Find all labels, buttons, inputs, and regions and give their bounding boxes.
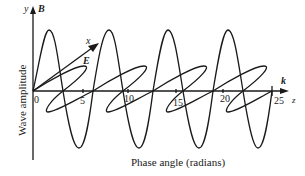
tick-label-15: 15 [173,98,183,108]
z-axis-arrow-icon [280,88,289,94]
tick-label-25: 25 [274,96,284,106]
diagram-graphics [0,0,305,176]
e-field-label: E [83,56,90,66]
y-axis-label: y [24,4,28,14]
z-axis-label: z [292,96,296,105]
b-field-wave [33,30,272,148]
b-field-label: B [38,4,45,14]
y-axis-arrow-icon [30,6,36,14]
k-vector-label: k [281,76,286,86]
x-axis-title: Phase angle (radians) [131,157,225,168]
tick-label-20: 20 [220,94,230,104]
tick-label-10: 10 [124,94,134,104]
tick-label-5: 5 [80,96,85,106]
y-axis-title: Wave amplitude [17,64,28,136]
x-axis-label: x [86,36,90,46]
tick-label-0: 0 [34,95,39,105]
em-wave-diagram: y B x E k z 0 5 10 15 20 25 Wave amplitu… [0,0,305,176]
e-field-wave [33,66,272,112]
